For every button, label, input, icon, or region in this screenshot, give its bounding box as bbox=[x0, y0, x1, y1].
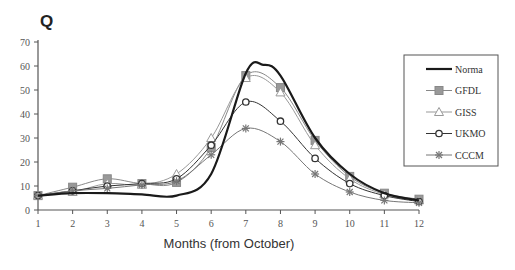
legend-marker-ukmo bbox=[436, 130, 442, 136]
series-cccm-marker bbox=[311, 170, 319, 178]
series-ukmo-marker bbox=[347, 180, 353, 186]
x-tick-label: 8 bbox=[278, 218, 283, 229]
y-tick-label: 10 bbox=[20, 181, 30, 192]
x-tick-label: 5 bbox=[174, 218, 179, 229]
y-tick-label: 60 bbox=[20, 61, 30, 72]
series-cccm-marker bbox=[242, 124, 250, 132]
x-tick-label: 1 bbox=[36, 218, 41, 229]
series-cccm-marker bbox=[276, 138, 284, 146]
x-tick-label: 4 bbox=[139, 218, 144, 229]
y-tick-label: 30 bbox=[20, 133, 30, 144]
series-cccm-line bbox=[38, 128, 419, 203]
x-tick-label: 3 bbox=[105, 218, 110, 229]
legend-label-cccm: CCCM bbox=[455, 150, 484, 161]
x-tick-label: 2 bbox=[70, 218, 75, 229]
x-tick-label: 7 bbox=[243, 218, 248, 229]
legend-label-ukmo: UKMO bbox=[455, 128, 486, 139]
x-tick-label: 10 bbox=[345, 218, 355, 229]
y-tick-label: 50 bbox=[20, 85, 30, 96]
series-ukmo-marker bbox=[208, 142, 214, 148]
x-tick-label: 12 bbox=[414, 218, 424, 229]
y-tick-label: 20 bbox=[20, 157, 30, 168]
legend-label-norma: Norma bbox=[455, 64, 483, 75]
series-giss-marker bbox=[207, 134, 216, 142]
x-tick-label: 11 bbox=[380, 218, 390, 229]
series-cccm-marker bbox=[380, 196, 388, 204]
line-chart: 010203040506070123456789101112NormaGFDLG… bbox=[0, 0, 515, 270]
series-cccm-marker bbox=[207, 151, 215, 159]
series-cccm-marker bbox=[103, 184, 111, 192]
legend-label-giss: GISS bbox=[455, 107, 477, 118]
y-tick-label: 40 bbox=[20, 109, 30, 120]
y-tick-label: 0 bbox=[25, 205, 30, 216]
x-tick-label: 9 bbox=[313, 218, 318, 229]
series-norma-line bbox=[38, 62, 419, 200]
series-cccm-marker bbox=[138, 181, 146, 189]
series-ukmo-marker bbox=[277, 118, 283, 124]
series-ukmo-marker bbox=[243, 99, 249, 105]
x-tick-label: 6 bbox=[209, 218, 214, 229]
legend-marker-gfdl bbox=[435, 87, 443, 95]
x-axis-label: Months (from October) bbox=[0, 236, 458, 251]
legend-marker-cccm bbox=[435, 151, 443, 159]
series-gfdl-line bbox=[38, 72, 419, 199]
series-ukmo-marker bbox=[312, 155, 318, 161]
legend-label-gfdl: GFDL bbox=[455, 85, 481, 96]
series-cccm-marker bbox=[346, 188, 354, 196]
y-tick-label: 70 bbox=[20, 37, 30, 48]
series-cccm-marker bbox=[173, 177, 181, 185]
